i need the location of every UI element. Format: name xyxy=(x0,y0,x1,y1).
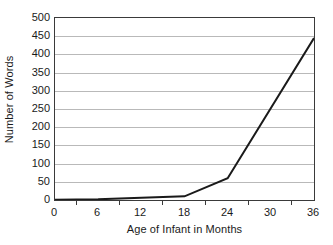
x-axis-tick-marks xyxy=(54,200,315,205)
y-axis-title: Number of Words xyxy=(0,0,18,199)
data-line-svg xyxy=(55,18,314,200)
x-axis-tick-mark xyxy=(76,200,77,205)
x-axis-tick-label: 36 xyxy=(293,206,333,219)
y-axis-tick-label: 0 xyxy=(18,193,50,205)
y-axis-tick-label: 450 xyxy=(18,29,50,41)
x-axis-tick-mark xyxy=(248,200,249,205)
y-axis-tick-label: 400 xyxy=(18,47,50,59)
x-axis-tick-label: 6 xyxy=(77,206,117,219)
plot-area xyxy=(54,17,315,201)
y-axis-tick-label: 350 xyxy=(18,66,50,78)
x-axis-tick-mark xyxy=(119,200,120,205)
x-axis-tick-mark xyxy=(162,200,163,205)
y-axis-tick-label: 200 xyxy=(18,120,50,132)
x-axis-tick-mark xyxy=(291,200,292,205)
x-axis-tick-label: 18 xyxy=(164,206,204,219)
x-axis-tick-labels: 061218243036 xyxy=(54,206,315,220)
x-axis-tick-label: 12 xyxy=(120,206,160,219)
x-axis-tick-label: 24 xyxy=(207,206,247,219)
y-axis-tick-label: 500 xyxy=(18,11,50,23)
y-axis-tick-label: 150 xyxy=(18,138,50,150)
line-chart: Number of Words 050100150200250300350400… xyxy=(0,0,333,245)
x-axis-title: Age of Infant in Months xyxy=(54,223,315,235)
x-axis-tick-label: 0 xyxy=(34,206,74,219)
y-axis-tick-label: 50 xyxy=(18,175,50,187)
x-axis-tick-label: 30 xyxy=(250,206,290,219)
data-series-line xyxy=(55,38,314,200)
y-axis-tick-label: 100 xyxy=(18,157,50,169)
x-axis-tick-mark xyxy=(205,200,206,205)
y-axis-tick-label: 250 xyxy=(18,102,50,114)
y-axis-tick-labels: 050100150200250300350400450500 xyxy=(18,11,50,205)
y-axis-tick-label: 300 xyxy=(18,84,50,96)
